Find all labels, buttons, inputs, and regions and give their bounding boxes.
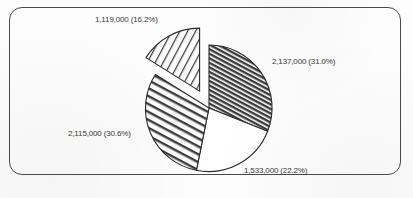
pie-slice-label-4: 1,119,000 (16.2%): [95, 15, 158, 25]
pie-slice-label-1: 2,137,000 (31.0%): [272, 57, 335, 67]
pie-chart-svg: [0, 0, 413, 198]
pie-slice-label-2: 1,533,000 (22.2%): [244, 166, 307, 176]
pie-chart: 1,119,000 (16.2%) 2,137,000 (31.0%) 1,53…: [0, 0, 413, 198]
pie-slice-label-3: 2,115,000 (30.6%): [68, 129, 131, 139]
chart-page: 1,119,000 (16.2%) 2,137,000 (31.0%) 1,53…: [0, 0, 413, 198]
